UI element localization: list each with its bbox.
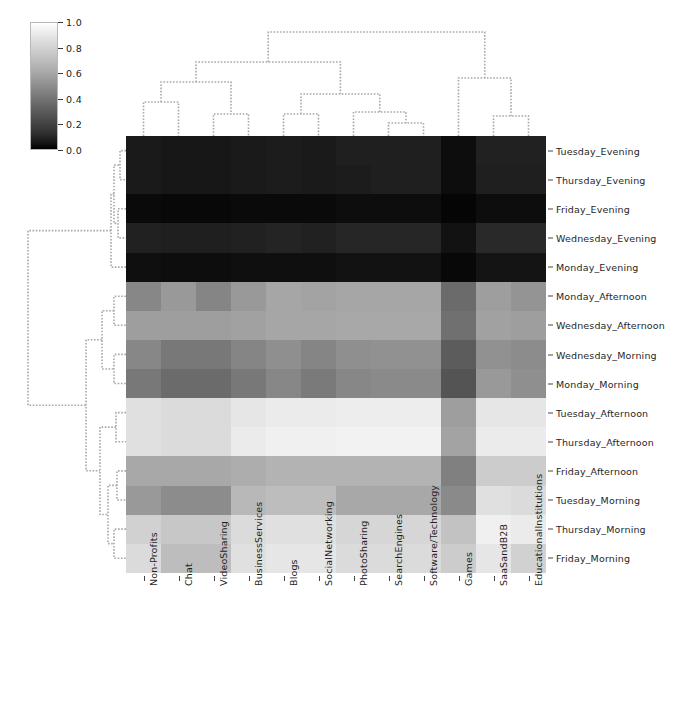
colorbar-tick (58, 48, 63, 49)
heatmap-cell (266, 515, 301, 544)
heatmap-cell (406, 311, 441, 340)
heatmap-cell (161, 398, 196, 427)
row-label: Thursday_Evening (556, 174, 646, 185)
heatmap-cell (371, 165, 406, 194)
row-label: Thursday_Afternoon (556, 436, 654, 447)
row-tick (548, 471, 553, 472)
row-label: Tuesday_Evening (556, 145, 640, 156)
heatmap-cell (371, 486, 406, 515)
heatmap-cell (161, 223, 196, 252)
column-label-wrap: Blogs (288, 586, 315, 597)
heatmap-cell (476, 311, 511, 340)
heatmap-cell (266, 223, 301, 252)
heatmap-cell (266, 456, 301, 485)
heatmap-cell (511, 282, 546, 311)
colorbar-tick (58, 99, 63, 100)
heatmap-cell (511, 223, 546, 252)
heatmap-cell (441, 311, 476, 340)
heatmap-cell (406, 398, 441, 427)
row-label: Monday_Morning (556, 378, 639, 389)
heatmap-cell (476, 282, 511, 311)
heatmap-grid (126, 136, 546, 573)
heatmap-cell (476, 253, 511, 282)
colorbar-tick (58, 73, 63, 74)
row-tick (548, 383, 553, 384)
heatmap-cell (441, 282, 476, 311)
heatmap-cell (406, 340, 441, 369)
row-tick (548, 441, 553, 442)
column-label: EducationalInstitutions (533, 474, 544, 586)
heatmap-cell (511, 369, 546, 398)
heatmap-cell (161, 427, 196, 456)
heatmap-cell (196, 136, 231, 165)
column-label: SaaSandB2B (498, 524, 509, 586)
heatmap-cell (161, 253, 196, 282)
row-tick (548, 208, 553, 209)
heatmap-cell (266, 340, 301, 369)
heatmap-cell (441, 398, 476, 427)
heatmap-cell (231, 282, 266, 311)
heatmap-cell (196, 311, 231, 340)
heatmap-cell (371, 369, 406, 398)
row-tick (548, 296, 553, 297)
heatmap-cell (126, 486, 161, 515)
heatmap-cell (441, 253, 476, 282)
heatmap-cell (476, 427, 511, 456)
heatmap-cell (371, 398, 406, 427)
heatmap-cell (371, 282, 406, 311)
clustermap-figure: 1.00.80.60.40.20.0 (0, 0, 682, 726)
row-label: Thursday_Morning (556, 524, 646, 535)
heatmap-cell (161, 282, 196, 311)
row-label: Wednesday_Afternoon (556, 320, 665, 331)
column-tick (249, 576, 250, 581)
row-label: Friday_Evening (556, 203, 630, 214)
heatmap-cell (301, 253, 336, 282)
heatmap-cell (406, 223, 441, 252)
row-tick (548, 237, 553, 238)
heatmap-cell (336, 223, 371, 252)
heatmap-cell (441, 456, 476, 485)
column-tick (319, 576, 320, 581)
heatmap-cell (231, 456, 266, 485)
heatmap-cell (476, 486, 511, 515)
row-label: Monday_Evening (556, 262, 639, 273)
heatmap-cell (161, 340, 196, 369)
heatmap-cell (511, 398, 546, 427)
heatmap-cell (371, 340, 406, 369)
heatmap-cell (231, 398, 266, 427)
heatmap-cell (476, 398, 511, 427)
column-tick (354, 576, 355, 581)
column-tick (144, 576, 145, 581)
heatmap-cell (266, 427, 301, 456)
heatmap-cell (441, 340, 476, 369)
heatmap-cell (301, 369, 336, 398)
heatmap-cell (126, 340, 161, 369)
heatmap-cell (266, 165, 301, 194)
column-label: Software/Technology (428, 485, 439, 586)
colorbar-gradient (30, 22, 58, 150)
heatmap-cell (231, 165, 266, 194)
heatmap-cell (196, 340, 231, 369)
heatmap-cell (231, 194, 266, 223)
heatmap-cell (126, 165, 161, 194)
column-label: Non-Profits (148, 532, 159, 586)
heatmap-cell (511, 136, 546, 165)
heatmap-cell (301, 456, 336, 485)
colorbar-tick-label: 0.4 (66, 93, 82, 104)
heatmap-cell (371, 311, 406, 340)
row-tick (548, 412, 553, 413)
row-tick (548, 150, 553, 151)
heatmap-cell (336, 369, 371, 398)
heatmap-cell (266, 136, 301, 165)
colorbar-tick-label: 1.0 (66, 17, 82, 28)
column-label: PhotoSharing (358, 521, 369, 586)
column-tick (214, 576, 215, 581)
heatmap-cell (476, 223, 511, 252)
heatmap-cell (301, 427, 336, 456)
heatmap-cell (336, 311, 371, 340)
heatmap-cell (161, 456, 196, 485)
row-label: Tuesday_Afternoon (556, 407, 648, 418)
heatmap-cell (196, 398, 231, 427)
colorbar-tick-label: 0.8 (66, 42, 82, 53)
heatmap-cell (126, 427, 161, 456)
